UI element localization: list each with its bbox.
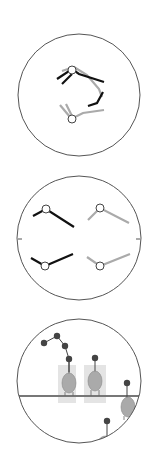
- black-strand: [88, 92, 103, 106]
- panel-1: [18, 34, 140, 156]
- dot-icon: [54, 333, 60, 339]
- body-ellipse: [99, 436, 113, 446]
- node-icon: [96, 204, 104, 212]
- node-icon: [68, 115, 76, 123]
- node-icon: [42, 205, 50, 213]
- dot-icon: [62, 343, 68, 349]
- diagram-canvas: [0, 0, 153, 450]
- node-icon: [96, 262, 104, 270]
- node-icon: [41, 262, 49, 270]
- node-icon: [68, 66, 76, 74]
- panel-3: [17, 319, 141, 446]
- black-strand: [33, 209, 74, 227]
- panel-3-circle: [17, 319, 141, 443]
- panel-1-circle: [18, 34, 140, 156]
- body-ellipse: [88, 371, 102, 391]
- gray-strand: [87, 254, 130, 266]
- dot-icon: [41, 340, 47, 346]
- body-ellipse: [62, 373, 76, 393]
- gray-strand: [88, 208, 129, 223]
- body-ellipse: [121, 397, 135, 417]
- panel-2-circle: [17, 176, 141, 300]
- panel-2: [17, 176, 141, 300]
- black-strand: [31, 254, 73, 266]
